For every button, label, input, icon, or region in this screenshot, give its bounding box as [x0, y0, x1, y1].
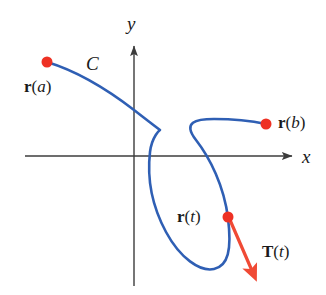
point-label-r-b-paren-close: ) [300, 113, 306, 132]
point-label-r-a-paren-close: ) [46, 77, 52, 96]
tangent-vector-label-paren-close: ) [284, 242, 290, 261]
point-marker-r-a [42, 57, 53, 68]
point-label-r-b-symbol: r [278, 113, 286, 132]
curve-name-label: C [86, 54, 99, 73]
point-label-r-b-param: b [291, 113, 300, 132]
point-label-r-a: r(a) [24, 78, 51, 95]
tangent-vector-arrow [230, 220, 253, 273]
point-marker-r-t [223, 212, 234, 223]
tangent-vector-label-symbol: T [262, 242, 273, 261]
point-label-r-t-symbol: r [177, 207, 185, 226]
point-label-r-t: r(t) [177, 208, 201, 225]
vector-calculus-figure: y x C r(a) r(b) r(t) T(t) [0, 0, 326, 295]
tangent-vector-label: T(t) [262, 243, 289, 260]
point-label-r-a-symbol: r [24, 77, 32, 96]
y-axis-label: y [127, 14, 135, 33]
parametric-curve [47, 62, 266, 269]
point-marker-r-b [261, 119, 272, 130]
point-label-r-a-param: a [37, 77, 46, 96]
x-axis-label: x [302, 147, 310, 166]
point-label-r-b: r(b) [278, 114, 305, 131]
point-label-r-t-paren-close: ) [195, 207, 201, 226]
